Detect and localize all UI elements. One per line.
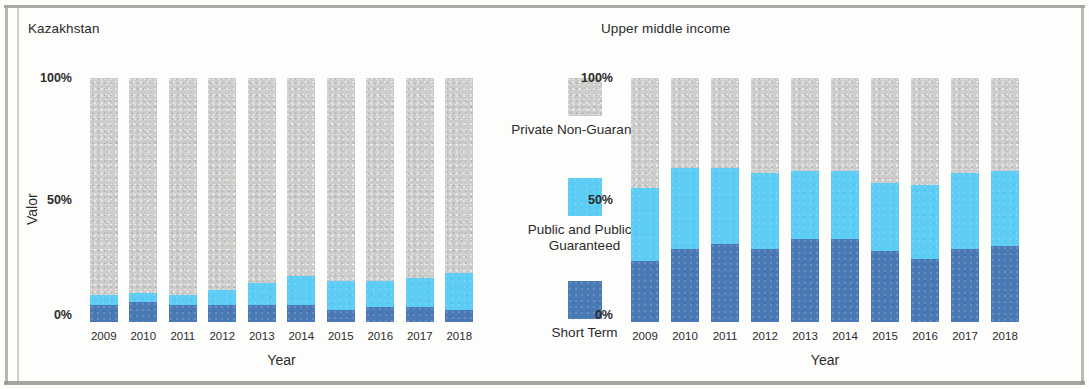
bar-segment-private-non-guaranteed: [169, 78, 197, 295]
bar-segment-short-term: [327, 310, 355, 322]
bar-segment-private-non-guaranteed: [751, 78, 779, 173]
bar-right-2009[interactable]: [631, 78, 659, 322]
bar-left-2017[interactable]: [406, 78, 434, 322]
x-tick-right-2009: 2009: [625, 330, 665, 342]
y-tick-100-left: 100%: [14, 71, 72, 85]
bar-segment-short-term: [991, 246, 1019, 322]
bar-right-2013[interactable]: [791, 78, 819, 322]
bar-segment-short-term: [711, 244, 739, 322]
bar-left-2010[interactable]: [129, 78, 157, 322]
bar-segment-private-non-guaranteed: [631, 78, 659, 188]
chart-title-right: Upper middle income: [601, 21, 730, 36]
bar-segment-public-and-publicly-guaranteed: [406, 278, 434, 307]
bar-right-2018[interactable]: [991, 78, 1019, 322]
y-tick-100-right: 100%: [555, 71, 613, 85]
chart-panel-upper-middle-income: Upper middle income 100% 50% 0% Year 200…: [545, 0, 1089, 389]
bar-segment-short-term: [406, 307, 434, 322]
bar-segment-public-and-publicly-guaranteed: [711, 168, 739, 244]
bar-right-2012[interactable]: [751, 78, 779, 322]
x-tick-left-2015: 2015: [321, 330, 361, 342]
x-tick-left-2016: 2016: [361, 330, 401, 342]
bar-left-2011[interactable]: [169, 78, 197, 322]
x-tick-right-2013: 2013: [785, 330, 825, 342]
bar-segment-private-non-guaranteed: [871, 78, 899, 183]
x-tick-right-2015: 2015: [865, 330, 905, 342]
bar-segment-private-non-guaranteed: [831, 78, 859, 171]
bar-segment-public-and-publicly-guaranteed: [90, 295, 118, 305]
bar-right-2014[interactable]: [831, 78, 859, 322]
bar-segment-public-and-publicly-guaranteed: [327, 281, 355, 310]
bar-left-2012[interactable]: [208, 78, 236, 322]
chart-title-left: Kazakhstan: [28, 21, 100, 36]
x-tick-left-2013: 2013: [242, 330, 282, 342]
bar-segment-short-term: [90, 305, 118, 322]
x-tick-left-2010: 2010: [124, 330, 164, 342]
x-tick-right-2017: 2017: [945, 330, 985, 342]
x-axis-label-right: Year: [625, 352, 1025, 368]
bar-right-2010[interactable]: [671, 78, 699, 322]
bar-segment-short-term: [631, 261, 659, 322]
bar-segment-public-and-publicly-guaranteed: [287, 276, 315, 305]
x-tick-right-2018: 2018: [985, 330, 1025, 342]
bar-segment-private-non-guaranteed: [991, 78, 1019, 171]
bar-segment-private-non-guaranteed: [248, 78, 276, 283]
bar-segment-private-non-guaranteed: [90, 78, 118, 295]
x-tick-left-2011: 2011: [163, 330, 203, 342]
bar-segment-short-term: [911, 259, 939, 322]
bar-segment-public-and-publicly-guaranteed: [951, 173, 979, 249]
bar-segment-short-term: [871, 251, 899, 322]
bar-segment-short-term: [831, 239, 859, 322]
bar-segment-private-non-guaranteed: [951, 78, 979, 173]
x-tick-right-2012: 2012: [745, 330, 785, 342]
x-tick-left-2012: 2012: [203, 330, 243, 342]
bar-segment-private-non-guaranteed: [327, 78, 355, 281]
bar-segment-public-and-publicly-guaranteed: [248, 283, 276, 305]
bar-left-2018[interactable]: [445, 78, 473, 322]
plot-area-right: [625, 78, 1025, 322]
bar-right-2015[interactable]: [871, 78, 899, 322]
x-tick-right-2016: 2016: [905, 330, 945, 342]
bar-left-2009[interactable]: [90, 78, 118, 322]
plot-area-left: [84, 78, 479, 322]
y-tick-50-left: 50%: [14, 193, 72, 207]
bar-segment-public-and-publicly-guaranteed: [831, 171, 859, 239]
bar-right-2016[interactable]: [911, 78, 939, 322]
y-tick-0-left: 0%: [14, 308, 72, 322]
bar-right-2017[interactable]: [951, 78, 979, 322]
bar-segment-public-and-publicly-guaranteed: [631, 188, 659, 261]
bar-segment-public-and-publicly-guaranteed: [911, 185, 939, 258]
bar-left-2014[interactable]: [287, 78, 315, 322]
bar-segment-public-and-publicly-guaranteed: [208, 290, 236, 305]
bar-segment-private-non-guaranteed: [711, 78, 739, 168]
bar-segment-private-non-guaranteed: [406, 78, 434, 278]
bar-segment-short-term: [169, 305, 197, 322]
x-tick-right-2014: 2014: [825, 330, 865, 342]
bar-segment-short-term: [208, 305, 236, 322]
bar-segment-private-non-guaranteed: [791, 78, 819, 171]
bar-segment-public-and-publicly-guaranteed: [366, 281, 394, 308]
bar-left-2013[interactable]: [248, 78, 276, 322]
bar-segment-private-non-guaranteed: [671, 78, 699, 168]
bar-segment-public-and-publicly-guaranteed: [871, 183, 899, 251]
bar-segment-private-non-guaranteed: [366, 78, 394, 281]
x-tick-left-2018: 2018: [440, 330, 480, 342]
bar-segment-public-and-publicly-guaranteed: [751, 173, 779, 249]
bar-segment-private-non-guaranteed: [208, 78, 236, 290]
bar-left-2016[interactable]: [366, 78, 394, 322]
bar-segment-short-term: [287, 305, 315, 322]
bar-right-2011[interactable]: [711, 78, 739, 322]
x-tick-left-2014: 2014: [282, 330, 322, 342]
bar-segment-private-non-guaranteed: [287, 78, 315, 276]
x-axis-label-left: Year: [84, 352, 479, 368]
bar-segment-public-and-publicly-guaranteed: [791, 171, 819, 239]
bar-segment-public-and-publicly-guaranteed: [991, 171, 1019, 247]
bar-left-2015[interactable]: [327, 78, 355, 322]
x-tick-left-2017: 2017: [400, 330, 440, 342]
bar-segment-private-non-guaranteed: [911, 78, 939, 185]
y-tick-0-right: 0%: [555, 308, 613, 322]
x-tick-left-2009: 2009: [84, 330, 124, 342]
chart-panel-kazakhstan: Kazakhstan Valor 100% 50% 0% Year 200920…: [0, 0, 545, 389]
x-tick-right-2010: 2010: [665, 330, 705, 342]
bar-segment-short-term: [129, 302, 157, 322]
bar-segment-short-term: [248, 305, 276, 322]
